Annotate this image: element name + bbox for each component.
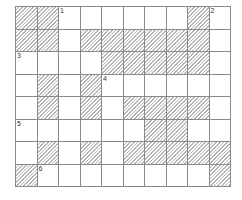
clue-number: 1 (60, 7, 64, 15)
shaded-cell (210, 142, 232, 165)
shaded-cell (81, 142, 103, 165)
answer-cell[interactable] (102, 97, 124, 120)
shaded-cell (38, 97, 60, 120)
shaded-cell (167, 97, 189, 120)
shaded-cell (102, 52, 124, 75)
answer-cell[interactable] (145, 75, 167, 98)
shaded-cell (124, 52, 146, 75)
shaded-cell (124, 97, 146, 120)
shaded-cell (16, 7, 38, 30)
answer-cell[interactable] (102, 142, 124, 165)
shaded-cell (167, 120, 189, 143)
answer-cell[interactable] (16, 75, 38, 98)
answer-cell[interactable] (59, 142, 81, 165)
shaded-cell (81, 97, 103, 120)
answer-cell[interactable] (59, 97, 81, 120)
answer-cell[interactable] (38, 120, 60, 143)
shaded-cell (167, 52, 189, 75)
answer-cell[interactable] (16, 142, 38, 165)
shaded-cell (81, 75, 103, 98)
answer-cell[interactable] (167, 7, 189, 30)
shaded-cell (16, 30, 38, 53)
shaded-cell (188, 97, 210, 120)
answer-cell[interactable] (59, 120, 81, 143)
shaded-cell (102, 30, 124, 53)
crossword-grid: 123456 (15, 6, 231, 187)
answer-cell[interactable] (59, 165, 81, 188)
answer-cell[interactable] (188, 165, 210, 188)
shaded-cell (38, 30, 60, 53)
answer-cell[interactable] (59, 52, 81, 75)
shaded-cell (81, 30, 103, 53)
answer-cell[interactable]: 1 (59, 7, 81, 30)
answer-cell[interactable] (16, 97, 38, 120)
shaded-cell (188, 7, 210, 30)
shaded-cell (38, 75, 60, 98)
shaded-cell (145, 97, 167, 120)
answer-cell[interactable] (167, 165, 189, 188)
answer-cell[interactable] (59, 30, 81, 53)
answer-cell[interactable] (210, 52, 232, 75)
answer-cell[interactable] (38, 52, 60, 75)
clue-number: 4 (103, 75, 107, 83)
answer-cell[interactable] (145, 7, 167, 30)
answer-cell[interactable] (124, 120, 146, 143)
answer-cell[interactable] (81, 7, 103, 30)
answer-cell[interactable] (145, 165, 167, 188)
answer-cell[interactable] (210, 120, 232, 143)
answer-cell[interactable] (102, 165, 124, 188)
answer-cell[interactable] (59, 75, 81, 98)
shaded-cell (145, 142, 167, 165)
shaded-cell (38, 142, 60, 165)
answer-cell[interactable] (124, 165, 146, 188)
answer-cell[interactable] (124, 75, 146, 98)
answer-cell[interactable] (188, 75, 210, 98)
answer-cell[interactable] (167, 75, 189, 98)
answer-cell[interactable] (210, 30, 232, 53)
clue-number: 6 (39, 165, 43, 173)
answer-cell[interactable] (81, 120, 103, 143)
answer-cell[interactable] (102, 120, 124, 143)
answer-cell[interactable] (81, 52, 103, 75)
answer-cell[interactable]: 5 (16, 120, 38, 143)
shaded-cell (124, 142, 146, 165)
shaded-cell (38, 7, 60, 30)
shaded-cell (188, 30, 210, 53)
answer-cell[interactable] (81, 165, 103, 188)
answer-cell[interactable]: 2 (210, 7, 232, 30)
answer-cell[interactable]: 3 (16, 52, 38, 75)
answer-cell[interactable] (210, 97, 232, 120)
answer-cell[interactable] (188, 120, 210, 143)
clue-number: 5 (17, 120, 21, 128)
shaded-cell (210, 165, 232, 188)
answer-cell[interactable]: 4 (102, 75, 124, 98)
shaded-cell (167, 142, 189, 165)
shaded-cell (145, 120, 167, 143)
clue-number: 3 (17, 52, 21, 60)
shaded-cell (188, 52, 210, 75)
shaded-cell (167, 30, 189, 53)
answer-cell[interactable] (124, 7, 146, 30)
shaded-cell (188, 142, 210, 165)
shaded-cell (124, 30, 146, 53)
answer-cell[interactable]: 6 (38, 165, 60, 188)
shaded-cell (145, 52, 167, 75)
answer-cell[interactable] (102, 7, 124, 30)
shaded-cell (145, 30, 167, 53)
shaded-cell (16, 165, 38, 188)
clue-number: 2 (211, 7, 215, 15)
answer-cell[interactable] (210, 75, 232, 98)
